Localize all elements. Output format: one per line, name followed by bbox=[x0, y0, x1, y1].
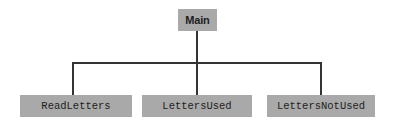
connector-root-stem bbox=[196, 31, 198, 62]
connector-right-drop bbox=[320, 62, 322, 95]
structure-chart: Main ReadLetters LettersUsed LettersNotU… bbox=[0, 0, 393, 126]
connector-left-drop bbox=[72, 62, 74, 95]
node-main-label: Main bbox=[185, 14, 209, 26]
node-letters-used-label: LettersUsed bbox=[162, 100, 231, 112]
node-letters-not-used: LettersNotUsed bbox=[267, 95, 375, 117]
node-letters-used: LettersUsed bbox=[142, 95, 252, 117]
node-letters-not-used-label: LettersNotUsed bbox=[277, 100, 365, 112]
node-read-letters-label: ReadLetters bbox=[41, 100, 110, 112]
connector-middle-drop bbox=[196, 62, 198, 95]
node-main: Main bbox=[178, 9, 217, 31]
node-read-letters: ReadLetters bbox=[20, 95, 132, 117]
